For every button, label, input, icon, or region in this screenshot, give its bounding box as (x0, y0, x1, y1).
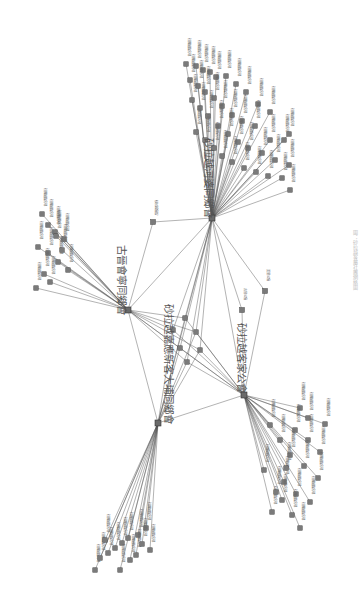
leaf-link (212, 165, 289, 218)
leaf-link (212, 172, 256, 218)
leaf-label: 社團組織名稱 (121, 544, 126, 563)
leaf-node (268, 423, 273, 428)
leaf-node (282, 138, 287, 143)
leaf-label: 社團組織名稱 (123, 517, 128, 536)
leaf-label: 社團組織名稱 (291, 164, 296, 183)
leaf-label: 社團組織名稱 (296, 404, 301, 423)
leaf-label: 社團組織名稱 (281, 414, 286, 433)
bridge-link (153, 218, 212, 222)
leaf-node (280, 498, 285, 503)
center-link (200, 218, 212, 350)
leaf-node (40, 212, 45, 217)
leaf-node (184, 62, 189, 67)
leaf-node (278, 438, 283, 443)
leaf-label: 社團組織名稱 (259, 78, 264, 97)
leaf-label: 社團組織名稱 (273, 486, 278, 505)
leaf-label: 社團組織名稱 (217, 51, 222, 70)
leaf-node (134, 553, 139, 558)
leaf-label: 社團組織名稱 (51, 256, 56, 275)
leaf-label: 社團組織名稱 (257, 146, 262, 165)
leaf-node (56, 260, 61, 265)
leaf-node (268, 138, 273, 143)
leaf-node (106, 551, 111, 556)
bridge-link (212, 218, 265, 291)
leaf-label: 社團組織名稱 (209, 90, 214, 109)
bridge-node (263, 289, 268, 294)
leaf-node (242, 166, 247, 171)
leaf-label: 社團組織名稱 (227, 50, 232, 69)
leaf-label: 社團組織名稱 (237, 58, 242, 77)
leaf-label: 社團組織名稱 (309, 414, 314, 433)
leaf-label: 社團組織名稱 (197, 40, 202, 59)
leaf-node (126, 536, 131, 541)
bridge-node (240, 308, 245, 313)
leaf-label: 社團組織名稱 (319, 452, 324, 471)
leaf-label: 社團組織名稱 (219, 100, 224, 119)
leaf-node (244, 90, 249, 95)
hub-label: 砂拉越河婆同鄉會 (203, 138, 215, 219)
leaf-node (274, 490, 279, 495)
leaf-label: 社團組織名稱 (263, 127, 268, 146)
leaf-label: 社團組織名稱 (206, 66, 211, 85)
leaf-node (302, 464, 307, 469)
leaf-label: 社團組織名稱 (326, 398, 331, 417)
hub-node (155, 420, 161, 426)
leaf-node (140, 542, 145, 547)
leaf-node (298, 526, 303, 531)
leaf-link (212, 190, 290, 218)
leaf-label: 社團組織名稱 (290, 108, 295, 127)
leaf-label: 社團組織名稱 (293, 489, 298, 508)
leaf-label: 社團組織名稱 (69, 244, 74, 263)
leaf-label: 社團組織名稱 (229, 108, 234, 127)
leaf-label: 社團組織名稱 (143, 518, 148, 537)
network-diagram: 社團組織名稱社團組織名稱社團組織名稱社團組織名稱社團組織名稱社團組織名稱社團組織… (0, 0, 364, 608)
leaf-label: 社團組織名稱 (223, 130, 228, 149)
leaf-node (188, 78, 193, 83)
center-node (178, 346, 183, 351)
leaf-label: 社團組織名稱 (247, 66, 252, 85)
leaf-label: 社團組織名稱 (116, 522, 121, 541)
leaf-node (254, 170, 259, 175)
leaf-link (44, 274, 128, 310)
leaf-label: 社團組織名稱 (197, 106, 202, 125)
leaf-label: 社團組織名稱 (283, 152, 288, 171)
leaf-label: 社團組織名稱 (276, 134, 281, 153)
leaf-label: 社團組織名稱 (201, 82, 206, 101)
leaf-label: 社團組織名稱 (215, 72, 220, 91)
leaf-label: 社團組織名稱 (256, 100, 261, 119)
hub-node (241, 392, 247, 398)
center-link (180, 218, 212, 348)
leaf-label: 社團組織名稱 (287, 442, 292, 461)
leaf-label: 社團組織名稱 (305, 440, 310, 459)
leaf-node (190, 98, 195, 103)
leaf-label: 社團組織名稱 (204, 44, 209, 63)
bridge-node-label: 美里公會 (266, 269, 271, 282)
leaf-label: 社團組織名稱 (283, 474, 288, 493)
diagram-caption: 圖：砂拉越客屬社團網絡圖 (350, 230, 360, 390)
leaf-label: 社團組織名稱 (233, 89, 238, 108)
leaf-label: 社團組織名稱 (106, 514, 111, 533)
center-node (185, 360, 190, 365)
leaf-node (42, 272, 47, 277)
leaf-link (212, 153, 262, 218)
leaf-node (234, 82, 239, 87)
leaf-label: 社團組織名稱 (321, 426, 326, 445)
leaf-label: 社團組織名稱 (243, 95, 248, 114)
bridge-node-label: 古晉公會 (243, 288, 248, 301)
leaf-label: 社團組織名稱 (277, 466, 282, 485)
bridge-node-label: 砂拉越會館 (154, 200, 159, 216)
leaf-label: 社團組織名稱 (297, 468, 302, 487)
center-link (187, 362, 244, 395)
center-node (198, 348, 203, 353)
hub-label: 砂拉越客家公會 (236, 323, 248, 394)
leaf-label: 社團組織名稱 (309, 392, 314, 411)
leaf-node (308, 500, 313, 505)
leaf-node (54, 234, 59, 239)
leaf-node (194, 130, 199, 135)
leaf-label: 社團組織名稱 (37, 262, 42, 281)
leaf-node (98, 556, 103, 561)
leaf-label: 社團組織名稱 (271, 86, 276, 105)
leaf-label: 社團組織名稱 (301, 502, 306, 521)
leaf-label: 社團組織名稱 (193, 74, 198, 93)
leaf-label: 社團組織名稱 (233, 136, 238, 155)
